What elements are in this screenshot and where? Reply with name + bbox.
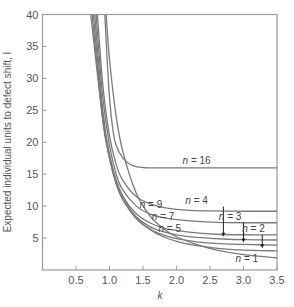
- series-n9: [97, 15, 277, 212]
- x-tick-label: 2.0: [169, 274, 184, 286]
- annotation-label: n = 4: [185, 195, 208, 206]
- y-tick-label: 30: [26, 72, 38, 84]
- chart: n = 16n = 9n = 4n = 7n = 3n = 5n = 2n = …: [0, 0, 294, 307]
- y-tick-label: 20: [26, 136, 38, 148]
- series-n4: [93, 15, 277, 240]
- annotation-label: n = 3: [219, 211, 242, 222]
- series-layer: [91, 15, 277, 258]
- x-tick-label: 2.5: [202, 274, 217, 286]
- x-axis: 0.51.01.52.02.53.03.5: [68, 266, 284, 286]
- annotation-n9: n = 9: [140, 199, 163, 210]
- y-axis-title: Expected individual units to defect shif…: [2, 52, 13, 233]
- arrowhead-icon: [242, 239, 246, 243]
- y-tick-label: 25: [26, 104, 38, 116]
- x-tick-label: 3.5: [269, 274, 284, 286]
- y-tick-label: 10: [26, 200, 38, 212]
- x-tick-label: 1.5: [135, 274, 150, 286]
- annotation-label: n = 1: [236, 253, 259, 264]
- annotation-label: n = 5: [159, 223, 182, 234]
- annotation-label: n = 16: [183, 155, 212, 166]
- y-axis: 510152025303540: [26, 9, 46, 245]
- annotation-label: n = 9: [140, 199, 163, 210]
- y-tick-label: 15: [26, 168, 38, 180]
- y-tick-label: 5: [32, 232, 38, 244]
- annotation-n1: n = 1: [236, 253, 259, 264]
- annotation-n16: n = 16: [183, 155, 212, 166]
- y-tick-label: 35: [26, 40, 38, 52]
- y-tick-label: 40: [26, 9, 38, 21]
- annotation-layer: n = 16n = 9n = 4n = 7n = 3n = 5n = 2n = …: [140, 155, 265, 264]
- x-tick-label: 3.0: [236, 274, 251, 286]
- x-tick-label: 1.0: [102, 274, 117, 286]
- annotation-n5: n = 5: [159, 223, 182, 234]
- annotation-label: n = 7: [152, 211, 175, 222]
- series-n16: [105, 15, 277, 168]
- x-axis-title: k: [158, 290, 164, 301]
- annotation-n7: n = 7: [152, 211, 175, 222]
- x-tick-label: 0.5: [68, 274, 83, 286]
- series-n7: [96, 15, 277, 223]
- annotation-label: n = 2: [242, 223, 265, 234]
- arrowhead-icon: [260, 244, 264, 248]
